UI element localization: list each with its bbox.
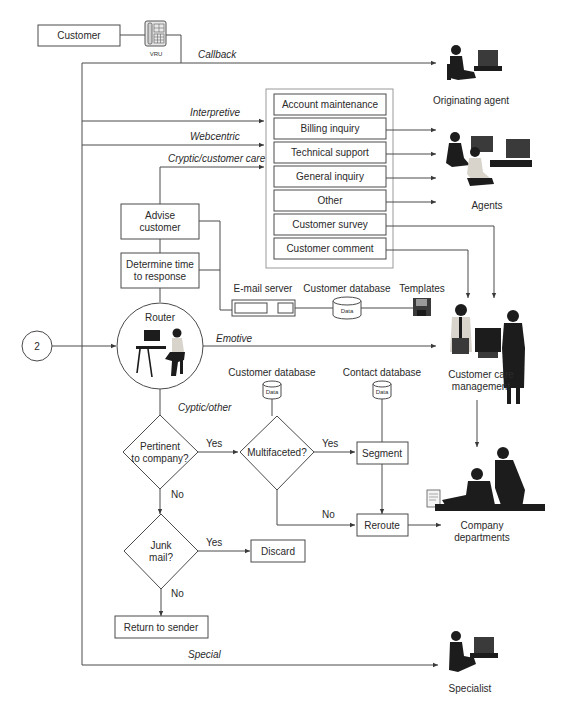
originating-agent-icon	[447, 45, 502, 80]
multifaceted-no-label: No	[322, 509, 335, 520]
route-interpretive: Interpretive	[190, 107, 240, 118]
svg-text:Determine time: Determine time	[126, 259, 194, 270]
svg-text:mail?: mail?	[149, 552, 173, 563]
junk-mail-decision: Junk mail?	[124, 514, 198, 589]
category-general-inquiry: General inquiry	[296, 171, 364, 182]
vru-phone-icon	[145, 21, 166, 46]
templates-label: Templates	[399, 283, 445, 294]
svg-text:Pertinent: Pertinent	[140, 441, 180, 452]
dest-company-departments-line1: Company	[461, 520, 504, 531]
specialist-icon	[449, 631, 498, 672]
category-customer-comment: Customer comment	[286, 243, 373, 254]
category-technical-support: Technical support	[291, 147, 369, 158]
route-cryptic-other: Cyptic/other	[178, 402, 232, 413]
junk-yes-label: Yes	[206, 537, 222, 548]
customer-database-mid-icon: Data	[263, 381, 281, 399]
route-callback: Callback	[198, 49, 237, 60]
segment-node: Segment	[357, 442, 408, 464]
determine-time-node: Determine time to response	[121, 253, 199, 288]
category-customer-survey: Customer survey	[292, 219, 368, 230]
agents-icon	[446, 132, 532, 186]
contact-database-label: Contact database	[343, 367, 422, 378]
svg-text:to response: to response	[134, 271, 187, 282]
svg-text:Data: Data	[266, 389, 279, 395]
svg-text:Segment: Segment	[362, 448, 402, 459]
dest-customer-care-management-line2: management	[452, 381, 511, 392]
contact-database-icon: Data	[373, 381, 391, 399]
reroute-node: Reroute	[357, 514, 408, 536]
svg-text:Reroute: Reroute	[364, 520, 400, 531]
discard-node: Discard	[251, 540, 305, 562]
customer-node: Customer	[38, 25, 120, 46]
vru-label: VRU	[150, 51, 163, 57]
multifaceted-yes-label: Yes	[322, 438, 338, 449]
customer-database-top-icon: Data	[333, 297, 361, 319]
junk-no-label: No	[171, 588, 184, 599]
category-other: Other	[317, 195, 343, 206]
company-departments-icon	[427, 447, 545, 511]
svg-text:Data: Data	[341, 308, 354, 314]
route-cryptic-customer-care: Cryptic/customer care	[168, 153, 266, 164]
email-routing-flowchart: Customer VRU Callback Interpretive Webce…	[0, 0, 568, 702]
dest-originating-agent: Originating agent	[433, 95, 509, 106]
route-special: Special	[188, 649, 222, 660]
pertinent-yes-label: Yes	[206, 438, 222, 449]
route-emotive: Emotive	[216, 333, 253, 344]
svg-text:customer: customer	[139, 222, 181, 233]
category-list: Account maintenance Billing inquiry Tech…	[274, 94, 386, 259]
templates-floppy-icon	[413, 298, 431, 316]
advise-customer-node: Advise customer	[121, 204, 199, 239]
svg-text:Return to sender: Return to sender	[124, 622, 199, 633]
dest-customer-care-management-line1: Customer care	[448, 369, 514, 380]
email-server-label: E-mail server	[234, 283, 294, 294]
return-to-sender-node: Return to sender	[115, 616, 208, 638]
route-webcentric: Webcentric	[190, 131, 240, 142]
email-server-icon	[232, 300, 295, 316]
svg-text:Data: Data	[376, 389, 389, 395]
category-account-maintenance: Account maintenance	[282, 99, 379, 110]
connector-2: 2	[22, 331, 52, 361]
pertinent-no-label: No	[171, 489, 184, 500]
router-node: Router	[117, 303, 203, 389]
pertinent-decision: Pertinent to company?	[123, 415, 198, 489]
svg-text:to company?: to company?	[131, 453, 189, 464]
dest-company-departments-line2: departments	[454, 532, 510, 543]
svg-text:2: 2	[34, 341, 40, 352]
customer-database-top-label: Customer database	[303, 283, 391, 294]
svg-text:Router: Router	[145, 312, 176, 323]
category-billing-inquiry: Billing inquiry	[301, 123, 360, 134]
dest-specialist: Specialist	[449, 683, 492, 694]
svg-text:Advise: Advise	[145, 210, 175, 221]
svg-text:Customer: Customer	[57, 30, 101, 41]
svg-text:Discard: Discard	[261, 546, 295, 557]
dest-agents: Agents	[471, 200, 502, 211]
multifaceted-decision: Multifaceted?	[240, 416, 314, 490]
svg-text:Junk: Junk	[150, 540, 172, 551]
customer-database-mid-label: Customer database	[228, 367, 316, 378]
svg-text:Multifaceted?: Multifaceted?	[247, 447, 307, 458]
